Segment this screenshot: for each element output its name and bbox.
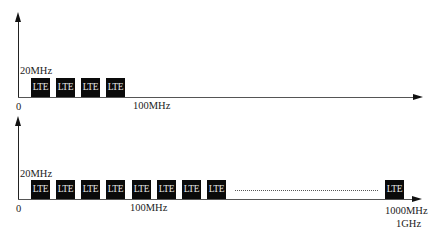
- top-y-axis: [18, 20, 20, 98]
- bottom-y-axis-arrow-icon: [15, 116, 21, 126]
- ellipsis-dotted-line: [235, 190, 378, 191]
- bottom-lte-carrier: LTE: [157, 180, 176, 199]
- top-lte-carrier: LTE: [81, 78, 100, 97]
- top-lte-carrier: LTE: [56, 78, 75, 97]
- bottom-tick-100mhz: 100MHz: [130, 202, 167, 213]
- top-origin-label: 0: [16, 101, 21, 112]
- top-x-axis-arrow-icon: [413, 94, 423, 100]
- bottom-bandwidth-label: 20MHz: [20, 168, 52, 179]
- top-lte-carrier: LTE: [106, 78, 125, 97]
- top-lte-carrier: LTE: [31, 78, 50, 97]
- bottom-tick-1000mhz: 1000MHz: [385, 205, 428, 216]
- bottom-tick-1ghz: 1GHz: [396, 218, 421, 229]
- bottom-x-axis-arrow-icon: [412, 196, 422, 202]
- bottom-lte-carrier: LTE: [182, 180, 201, 199]
- bottom-lte-carrier: LTE: [56, 180, 75, 199]
- top-bandwidth-label: 20MHz: [20, 65, 52, 76]
- top-x-axis: [18, 97, 414, 99]
- bottom-lte-carrier: LTE: [132, 180, 151, 199]
- top-y-axis-arrow-icon: [15, 12, 21, 22]
- bottom-lte-carrier: LTE: [207, 180, 226, 199]
- lte-carrier-aggregation-diagram: 20MHz 0 100MHz LTE LTE LTE LTE 20MHz 0 1…: [0, 0, 443, 235]
- bottom-lte-carrier: LTE: [31, 180, 50, 199]
- top-tick-100mhz: 100MHz: [133, 100, 170, 111]
- bottom-y-axis: [18, 124, 20, 200]
- bottom-lte-carrier: LTE: [106, 180, 125, 199]
- bottom-lte-carrier: LTE: [81, 180, 100, 199]
- bottom-lte-carrier-last: LTE: [385, 180, 404, 199]
- bottom-origin-label: 0: [16, 203, 21, 214]
